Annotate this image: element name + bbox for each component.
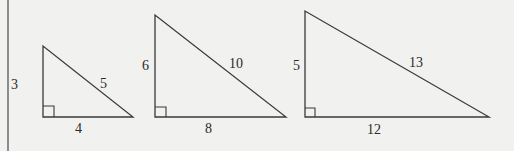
horizontal-leg-label: 4 bbox=[75, 121, 82, 136]
hypotenuse-label: 13 bbox=[409, 55, 423, 70]
triangle-6-8-10: 6 10 8 bbox=[142, 15, 286, 136]
right-angle-marker bbox=[155, 107, 166, 117]
horizontal-leg-label: 8 bbox=[205, 121, 212, 136]
right-angle-marker bbox=[305, 108, 315, 117]
triangle-3-4-5: 3 5 4 bbox=[11, 46, 133, 136]
hypotenuse-label: 5 bbox=[100, 76, 107, 91]
right-angle-marker bbox=[43, 106, 54, 117]
hypotenuse-label: 10 bbox=[229, 56, 243, 71]
triangle-5-12-13: 5 13 12 bbox=[293, 11, 489, 137]
right-triangles-diagram: 3 5 4 6 10 8 5 13 12 bbox=[0, 0, 514, 151]
vertical-leg-label: 3 bbox=[11, 77, 18, 92]
vertical-leg-label: 6 bbox=[142, 58, 149, 73]
horizontal-leg-label: 12 bbox=[367, 122, 381, 137]
vertical-leg-label: 5 bbox=[293, 58, 300, 73]
